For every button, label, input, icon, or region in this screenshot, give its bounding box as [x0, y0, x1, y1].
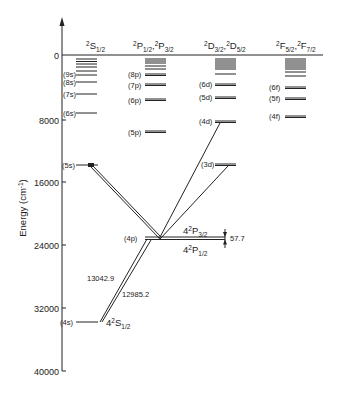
label-ground-state: 42S1/2	[106, 317, 131, 330]
label-4p12: 42P1/2	[183, 244, 208, 257]
level-6p: (6p)	[128, 96, 142, 105]
energy-level-diagram: 0 8000 16000 24000 32000 40000 Energy (c…	[0, 0, 339, 395]
level-7s: (7s)	[63, 90, 76, 99]
level-3d: (3d)	[201, 160, 215, 169]
tick-24000: 24000	[34, 241, 59, 251]
level-5d: (5d)	[199, 93, 213, 102]
level-8s: (8s)	[63, 78, 76, 87]
splitting-value: 57.7	[230, 234, 245, 243]
tick-40000: 40000	[34, 367, 59, 377]
column-header-p: 2P1/2,2P3/2	[133, 40, 174, 53]
level-6d: (6d)	[199, 80, 213, 89]
level-4p: (4p)	[124, 234, 138, 243]
d-series-levels	[215, 59, 236, 166]
level-5s: (5s)	[62, 161, 75, 170]
label-4p32: 42P3/2	[183, 225, 208, 238]
y-axis-label: Energy (cm-1)	[17, 179, 29, 237]
level-4d: (4d)	[199, 117, 213, 126]
transition-13042: 13042.9	[87, 274, 114, 283]
axis-arrow-icon	[60, 17, 65, 26]
level-4f: (4f)	[269, 112, 281, 121]
tick-32000: 32000	[34, 304, 59, 314]
f-series-levels	[285, 59, 306, 118]
level-4s: (4s)	[60, 318, 73, 327]
column-header-s: 2S1/2	[86, 40, 105, 53]
transition-12985: 12985.2	[122, 290, 149, 299]
column-header-f: 2F5/2,2F7/2	[276, 40, 316, 53]
transition-lines	[90, 123, 228, 322]
level-8p: (8p)	[128, 70, 142, 79]
level-6f: (6f)	[269, 83, 281, 92]
level-7p: (7p)	[128, 81, 142, 90]
level-5p: (5p)	[128, 128, 142, 137]
tick-8000: 8000	[39, 116, 59, 126]
splitting-marker	[223, 229, 227, 248]
level-5f: (5f)	[269, 94, 281, 103]
tick-16000: 16000	[34, 178, 59, 188]
tick-0: 0	[54, 51, 59, 61]
column-header-d: 2D3/2,2D5/2	[204, 40, 246, 53]
level-6s: (6s)	[63, 109, 76, 118]
